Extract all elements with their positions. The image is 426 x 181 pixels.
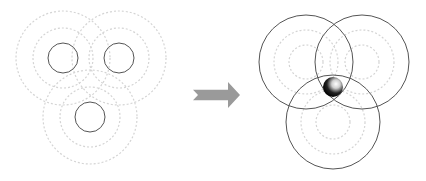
range-ring-dashed bbox=[16, 11, 110, 105]
station-circle-2 bbox=[104, 43, 134, 73]
right-arrow-icon bbox=[193, 82, 240, 108]
left-panel bbox=[16, 11, 166, 164]
range-ring-dashed bbox=[72, 11, 166, 105]
range-ring-dashed bbox=[345, 45, 379, 79]
station-circle-1 bbox=[48, 43, 78, 73]
range-ring-dashed bbox=[316, 105, 350, 139]
range-ring-dashed bbox=[289, 45, 323, 79]
right-panel bbox=[259, 15, 409, 169]
range-ring-dashed bbox=[43, 70, 137, 164]
sphere-icon bbox=[323, 77, 343, 97]
arrow-shape bbox=[193, 82, 240, 108]
station-circle-3 bbox=[75, 102, 105, 132]
range-ring-dashed bbox=[89, 28, 149, 88]
trilateration-diagram bbox=[0, 0, 426, 181]
